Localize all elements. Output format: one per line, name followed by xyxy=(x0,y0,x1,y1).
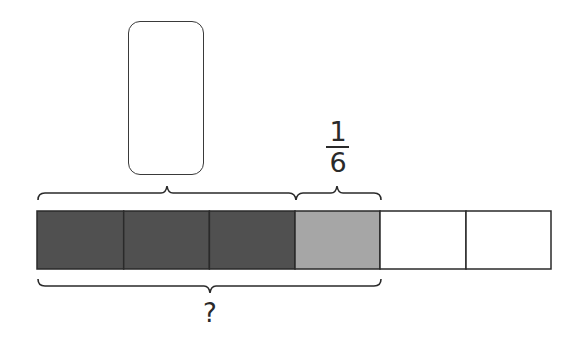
top-brace-right xyxy=(296,186,381,200)
tape-diagram-canvas xyxy=(0,0,582,340)
bottom-brace xyxy=(38,279,381,293)
segment-2 xyxy=(124,211,210,269)
segment-1 xyxy=(37,211,124,269)
segment-6 xyxy=(466,211,551,269)
unknown-total-label: ? xyxy=(195,297,225,329)
fraction-denominator: 6 xyxy=(318,148,358,178)
fraction-numerator: 1 xyxy=(318,117,358,147)
segment-3 xyxy=(209,211,295,269)
segment-5 xyxy=(380,211,466,269)
top-brace-left xyxy=(38,186,296,200)
tape-bar xyxy=(37,211,551,269)
answer-input-box[interactable] xyxy=(128,21,204,175)
segment-4 xyxy=(295,211,380,269)
